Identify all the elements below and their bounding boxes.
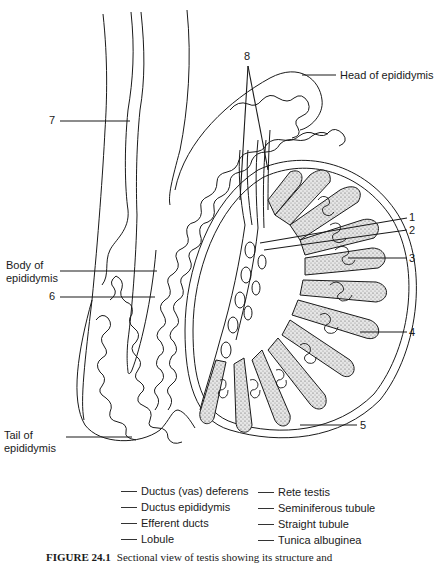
label-3: 3 bbox=[409, 252, 415, 265]
legend-item: Rete testis bbox=[258, 484, 375, 500]
label-8: 8 bbox=[244, 50, 250, 63]
answer-blank[interactable] bbox=[121, 507, 137, 508]
leader-8b bbox=[248, 66, 268, 170]
label-tail-line2: epididymis bbox=[4, 442, 56, 455]
legend-item: Ductus (vas) deferens bbox=[121, 483, 249, 499]
legend-item: Seminiferous tubule bbox=[258, 500, 375, 516]
leader-lines bbox=[60, 63, 407, 437]
legend-text: Tunica albuginea bbox=[278, 534, 361, 546]
answer-blank[interactable] bbox=[258, 492, 274, 493]
legend-text: Straight tubule bbox=[278, 518, 349, 530]
label-4: 4 bbox=[409, 326, 415, 339]
legend-item: Straight tubule bbox=[258, 516, 375, 532]
legend-text: Seminiferous tubule bbox=[278, 502, 375, 514]
legend-text: Rete testis bbox=[278, 486, 330, 498]
legend-text: Ductus (vas) deferens bbox=[141, 485, 249, 497]
label-body-line1: Body of bbox=[6, 259, 58, 272]
label-1: 1 bbox=[409, 211, 415, 224]
legend-item: Lobule bbox=[121, 531, 249, 547]
figure-caption: FIGURE 24.1Sectional view of testis show… bbox=[46, 551, 332, 563]
legend-item: Efferent ducts bbox=[121, 515, 249, 531]
legend-left-column: Ductus (vas) deferens Ductus epididymis … bbox=[121, 483, 249, 547]
legend-text: Ductus epididymis bbox=[141, 501, 230, 513]
label-6: 6 bbox=[49, 290, 55, 303]
label-tail-line1: Tail of bbox=[4, 429, 56, 442]
ductus-deferens bbox=[102, 12, 156, 374]
legend-text: Lobule bbox=[141, 533, 174, 545]
label-body-of-epididymis: Body of epididymis bbox=[6, 259, 58, 285]
caption-text: Sectional view of testis showing its str… bbox=[117, 551, 332, 563]
legend-item: Tunica albuginea bbox=[258, 532, 375, 548]
caption-number: FIGURE 24.1 bbox=[46, 551, 111, 563]
label-tail-of-epididymis: Tail of epididymis bbox=[4, 429, 56, 455]
label-2: 2 bbox=[409, 224, 415, 237]
answer-blank[interactable] bbox=[121, 491, 137, 492]
answer-blank[interactable] bbox=[121, 523, 137, 524]
answer-blank[interactable] bbox=[258, 508, 274, 509]
answer-blank[interactable] bbox=[258, 524, 274, 525]
label-7: 7 bbox=[49, 114, 55, 127]
legend-right-column: Rete testis Seminiferous tubule Straight… bbox=[258, 484, 375, 548]
testis-diagram bbox=[0, 0, 434, 564]
label-head-of-epididymis: Head of epididymis bbox=[340, 69, 434, 82]
answer-blank[interactable] bbox=[258, 540, 274, 541]
answer-blank[interactable] bbox=[121, 539, 137, 540]
legend-item: Ductus epididymis bbox=[121, 499, 249, 515]
label-5: 5 bbox=[360, 419, 366, 432]
label-body-line2: epididymis bbox=[6, 272, 58, 285]
legend-text: Efferent ducts bbox=[141, 517, 209, 529]
